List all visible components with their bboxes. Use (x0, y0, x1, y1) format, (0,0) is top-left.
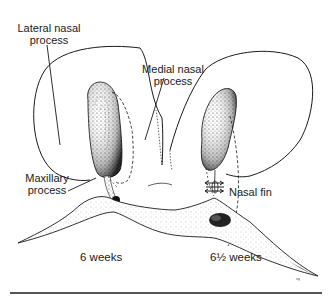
label-line: process (138, 75, 208, 87)
facial-base (18, 197, 318, 276)
label-line: Medial nasal (138, 63, 208, 75)
label-line: Lateral nasal (14, 22, 84, 34)
caption-6-weeks: 6 weeks (80, 251, 122, 263)
leader-medial-nasal-left (145, 78, 164, 140)
leader-maxillary (68, 178, 96, 191)
label-medial-nasal-process: Medial nasal process (138, 63, 208, 87)
svg-text:sig: sig (296, 277, 300, 281)
embryo-nasal-development-diagram: sig Lateral nasal process Medial nasal p… (0, 0, 330, 296)
label-line: process (14, 34, 84, 46)
caption-6-5-weeks: 6½ weeks (210, 251, 262, 263)
leader-lateral-nasal (47, 45, 60, 145)
label-lateral-nasal-process: Lateral nasal process (14, 22, 84, 46)
left-nasal-pit (88, 82, 122, 204)
nasal-fin-marker (205, 181, 224, 193)
label-maxillary-process: Maxillary process (22, 172, 72, 196)
label-nasal-fin: Nasal fin (229, 186, 272, 198)
label-line: Maxillary (22, 172, 72, 184)
label-line: process (22, 184, 72, 196)
bottom-rule (10, 292, 322, 294)
